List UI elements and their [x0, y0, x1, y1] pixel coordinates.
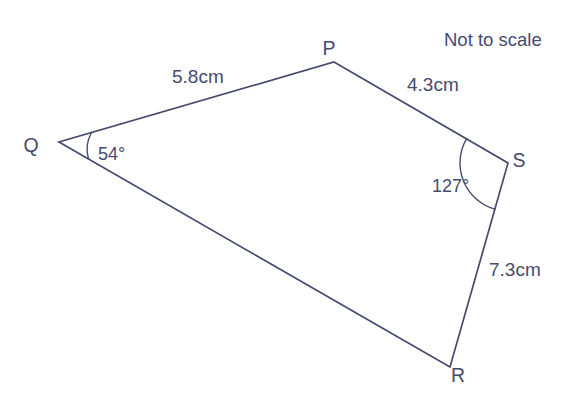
vertex-label-q: Q [23, 134, 38, 156]
quadrilateral-figure-svg: P Q R S 5.8cm 4.3cm 7.3cm 54° 127° Not t… [0, 0, 580, 414]
angle-label-q: 54° [98, 144, 125, 164]
quadrilateral-outline [59, 62, 508, 367]
side-length-label-sr: 7.3cm [489, 259, 541, 280]
side-length-label-qp: 5.8cm [172, 66, 224, 87]
vertex-label-p: P [322, 37, 335, 59]
angle-label-s: 127° [432, 176, 469, 196]
vertex-label-s: S [512, 149, 525, 171]
side-length-label-ps: 4.3cm [407, 74, 459, 95]
not-to-scale-note: Not to scale [444, 29, 542, 50]
angle-arc-s [460, 139, 495, 209]
vertex-label-r: R [451, 364, 465, 386]
angle-arc-q [87, 133, 91, 160]
geometry-diagram: P Q R S 5.8cm 4.3cm 7.3cm 54° 127° Not t… [0, 0, 580, 414]
